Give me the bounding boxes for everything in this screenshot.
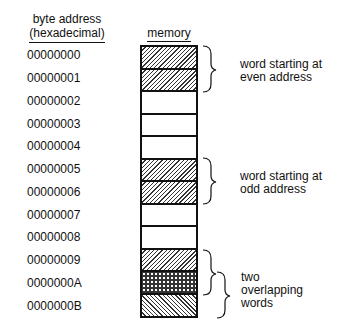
brace-icon [203,46,216,92]
annotation-odd-word: word starting at odd address [240,170,322,196]
annotation-line: odd address [240,183,322,196]
annotation-line: words [241,297,303,310]
annotation-overlapping-words: two overlapping words [241,271,303,310]
brace-icon [203,250,216,295]
brace-icon [203,158,216,204]
annotation-even-word: word starting at even address [240,58,322,84]
brace-icon [217,272,230,318]
annotation-line: even address [240,71,322,84]
